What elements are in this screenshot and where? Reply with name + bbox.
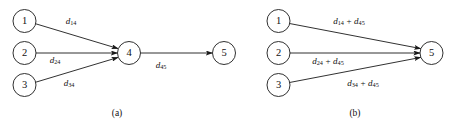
node-a-4-label: 4	[126, 47, 132, 58]
node-b-5-label: 5	[429, 47, 434, 58]
edge-label-b-d24-plus-d45: d24+d45	[312, 56, 343, 67]
node-a-1[interactable]: 1	[13, 10, 36, 33]
panel-a: 1 2 3 4 5	[13, 10, 236, 120]
node-b-1-label: 1	[276, 15, 281, 26]
node-a-1-label: 1	[22, 15, 27, 26]
node-a-5[interactable]: 5	[213, 42, 236, 65]
edge-label-a-d14: d14	[66, 16, 77, 27]
edge-label-b-d14-plus-d45: d14+d45	[333, 16, 364, 27]
node-a-5-label: 5	[221, 47, 226, 58]
panel-b-edges	[290, 24, 421, 83]
edge-a-3-to-4	[35, 57, 118, 82]
node-b-3[interactable]: 3	[267, 74, 290, 97]
panel-b-edge-labels: d14+d45 d24+d45 d34+d45	[312, 16, 378, 89]
node-b-5[interactable]: 5	[420, 42, 443, 65]
edge-label-b-d34-plus-d45: d34+d45	[347, 78, 378, 89]
edge-label-a-d45: d45	[156, 60, 167, 71]
node-b-2[interactable]: 2	[267, 42, 290, 65]
figure-container: 1 2 3 4 5	[0, 0, 453, 129]
node-a-3[interactable]: 3	[13, 74, 36, 97]
panel-a-edge-labels: d14 d24 d34 d45	[50, 16, 167, 89]
edge-label-a-d24: d24	[50, 55, 61, 66]
node-b-3-label: 3	[276, 79, 281, 90]
node-a-2-label: 2	[22, 47, 27, 58]
edge-b-1-to-5	[290, 24, 421, 49]
node-b-1[interactable]: 1	[267, 10, 290, 33]
node-b-2-label: 2	[276, 47, 281, 58]
edge-a-1-to-4	[35, 24, 118, 49]
edge-b-3-to-5	[290, 57, 421, 82]
panel-b: 1 2 3 5 d14+d45	[267, 10, 443, 120]
node-a-2[interactable]: 2	[13, 42, 36, 65]
graph-diagram-svg: 1 2 3 4 5	[0, 0, 453, 129]
node-a-3-label: 3	[22, 79, 27, 90]
edge-label-a-d34: d34	[64, 78, 75, 89]
node-a-4[interactable]: 4	[118, 42, 141, 65]
caption-panel-b: (b)	[349, 108, 360, 119]
caption-panel-a: (a)	[112, 108, 123, 119]
